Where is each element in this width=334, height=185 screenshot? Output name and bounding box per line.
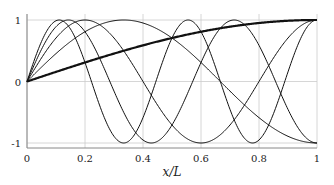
x-tick-label: 0 [24, 153, 30, 164]
y-tick-label: 1 [15, 15, 21, 26]
x-tick-label: 0.8 [251, 153, 267, 164]
x-tick-label: 0.4 [135, 153, 151, 164]
x-tick-labels: 00.20.40.60.81 [24, 153, 320, 164]
x-tick-label: 1 [314, 153, 320, 164]
x-tick-label: 0.6 [193, 153, 209, 164]
mode-shape-chart: 00.20.40.60.81 -101 x/L [0, 0, 334, 185]
x-tick-label: 0.2 [77, 153, 93, 164]
y-tick-label: -1 [11, 138, 21, 149]
y-tick-labels: -101 [11, 15, 21, 149]
y-tick-label: 0 [15, 77, 21, 88]
x-axis-label: x/L [163, 165, 182, 179]
